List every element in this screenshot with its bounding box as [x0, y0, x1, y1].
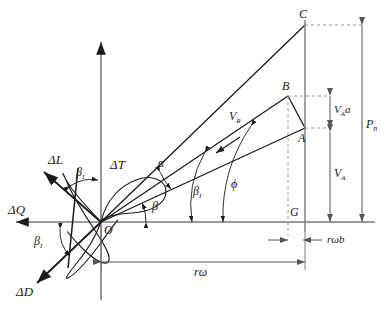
label-dimension-Pn: Pn [366, 118, 377, 133]
va-subscript: A [341, 174, 345, 182]
dimension-group [101, 25, 362, 270]
arc-phi [223, 126, 251, 222]
label-dimension-r-omega: rω [194, 266, 207, 278]
arc-beta [142, 203, 146, 222]
label-point-C: C [299, 8, 307, 20]
pn-subscript: n [373, 124, 377, 133]
label-angle-beta-i-drag: βI [34, 235, 42, 250]
lift-drag-crossbar [68, 168, 78, 268]
angle-arc-group [60, 126, 251, 256]
vr-subscript: R [236, 117, 240, 125]
label-point-G: G [290, 206, 299, 218]
betai3-subscript: I [40, 242, 42, 250]
line-O-to-C [101, 25, 305, 222]
betai2-subscript: I [82, 173, 84, 181]
vaa-suffix: a [345, 103, 351, 115]
vaa-main: V [334, 103, 341, 115]
vr-direction-arrow [216, 137, 240, 153]
velocity-lines [101, 20, 305, 232]
label-point-A: A [298, 132, 305, 144]
label-velocity-VAa: VAa [334, 104, 351, 118]
label-point-B: B [282, 80, 289, 92]
label-angle-beta-i-main: βI [193, 185, 201, 200]
diagram-canvas: C B A G O ΔT ΔQ ΔL ΔD VR VAa VA Pn rω rω… [0, 0, 385, 314]
label-angle-beta: β [152, 200, 158, 212]
label-delta-T: ΔT [110, 158, 125, 171]
label-velocity-VA: VA [334, 167, 346, 182]
line-O-to-B [101, 96, 288, 222]
label-delta-Q: ΔQ [8, 203, 25, 216]
label-dimension-r-omega-b: rωb [327, 234, 345, 245]
label-origin-O: O [104, 224, 113, 236]
label-angle-alpha: α [158, 157, 164, 169]
label-angle-beta-i-lift: βI [76, 166, 84, 181]
label-angle-phi: ϕ [231, 178, 237, 190]
label-delta-L: ΔL [48, 153, 63, 166]
label-delta-D: ΔD [16, 285, 33, 298]
line-B-to-A [288, 96, 305, 128]
axis-group [16, 42, 375, 300]
line-O-to-A [101, 128, 305, 222]
betai-subscript: I [199, 192, 201, 200]
label-velocity-VR: VR [229, 110, 241, 125]
